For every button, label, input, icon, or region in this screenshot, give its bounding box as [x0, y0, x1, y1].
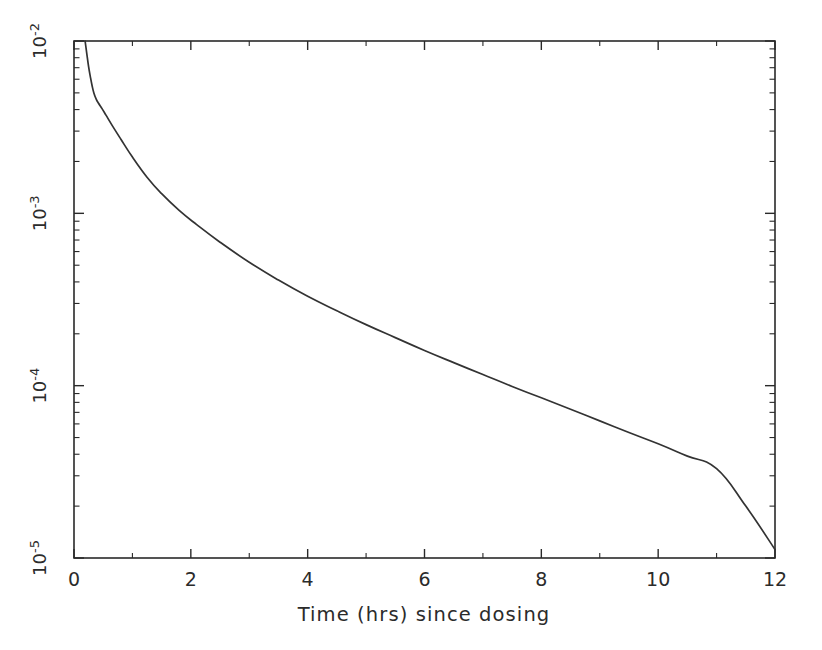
figure-background: [0, 0, 822, 650]
x-tick-label-6: 6: [418, 568, 430, 590]
y-tick-label-exponent: -3: [27, 195, 42, 208]
y-tick-label-exponent: -4: [27, 368, 42, 381]
y-tick-label-exponent: -5: [27, 540, 42, 553]
x-tick-label-0: 0: [68, 568, 80, 590]
x-tick-label-10: 10: [646, 568, 670, 590]
x-tick-label-12: 12: [763, 568, 787, 590]
y-tick-label-exponent: -2: [27, 23, 42, 36]
chart-canvas: 024681012 10-210-310-410-5 Time (hrs) si…: [0, 0, 822, 650]
y-tick-label-base: 10: [29, 36, 50, 59]
y-tick-label-base: 10: [29, 381, 50, 404]
y-tick-label-base: 10: [29, 553, 50, 576]
x-tick-label-8: 8: [535, 568, 547, 590]
chart-figure: 024681012 10-210-310-410-5 Time (hrs) si…: [0, 0, 822, 650]
x-axis-title: Time (hrs) since dosing: [297, 603, 551, 626]
y-tick-label-base: 10: [29, 208, 50, 231]
x-tick-label-4: 4: [302, 568, 314, 590]
x-tick-label-2: 2: [185, 568, 197, 590]
